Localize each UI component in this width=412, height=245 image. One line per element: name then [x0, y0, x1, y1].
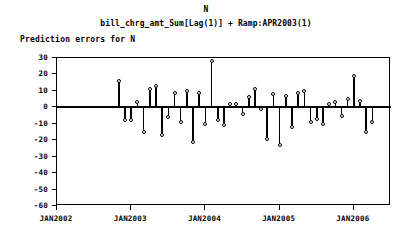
- y-axis-label: 20: [0, 69, 48, 78]
- needle-stem: [273, 94, 275, 107]
- y-axis-tick: [52, 156, 56, 157]
- data-point-marker: [321, 122, 325, 126]
- y-axis-label: 30: [0, 53, 48, 62]
- data-point-marker: [241, 112, 245, 116]
- data-point-marker: [364, 130, 368, 134]
- data-point-marker: [142, 130, 146, 134]
- data-point-marker: [123, 118, 127, 122]
- data-point-marker: [191, 140, 195, 144]
- data-point-marker: [203, 122, 207, 126]
- data-point-marker: [352, 74, 356, 78]
- data-point-marker: [247, 95, 251, 99]
- data-point-marker: [358, 99, 362, 103]
- needle-stem: [304, 91, 306, 107]
- needle-stem: [143, 107, 145, 132]
- x-axis-label: JAN2006: [336, 214, 369, 223]
- data-point-marker: [259, 107, 263, 111]
- data-point-marker: [333, 100, 337, 104]
- data-point-marker: [135, 100, 139, 104]
- x-axis-tick: [130, 205, 131, 210]
- data-point-marker: [340, 114, 344, 118]
- needle-stem: [211, 61, 213, 107]
- y-axis-tick: [52, 139, 56, 140]
- chart-subtitle: bill_chrg_amt_Sum[Lag(1)] + Ramp:APR2003…: [0, 19, 412, 28]
- data-point-marker: [265, 137, 269, 141]
- needle-stem: [254, 89, 256, 107]
- data-point-marker: [278, 143, 282, 147]
- needle-stem: [149, 89, 151, 107]
- data-point-marker: [148, 87, 152, 91]
- data-point-marker: [271, 92, 275, 96]
- data-point-marker: [117, 79, 121, 83]
- x-axis-label: JAN2003: [114, 214, 147, 223]
- x-axis-tick: [56, 205, 57, 210]
- needle-stem: [198, 93, 200, 108]
- needle-stem: [279, 107, 281, 145]
- x-axis-tick: [353, 205, 354, 210]
- x-axis-label: JAN2005: [262, 214, 295, 223]
- needle-stem: [161, 107, 163, 135]
- x-axis-tick: [204, 205, 205, 210]
- data-point-marker: [309, 120, 313, 124]
- y-axis-tick: [52, 123, 56, 124]
- y-axis-label: -20: [0, 135, 48, 144]
- data-point-marker: [216, 118, 220, 122]
- data-point-marker: [129, 118, 133, 122]
- y-axis: [56, 57, 57, 205]
- data-point-marker: [346, 97, 350, 101]
- needle-stem: [365, 107, 367, 132]
- needle-stem: [118, 81, 120, 107]
- data-point-marker: [160, 133, 164, 137]
- y-axis-label: -40: [0, 168, 48, 177]
- needle-stem: [174, 93, 176, 108]
- y-axis-tick: [52, 90, 56, 91]
- y-axis-tick: [52, 106, 56, 107]
- y-axis-label: -10: [0, 118, 48, 127]
- data-point-marker: [290, 125, 294, 129]
- y-axis-label: -30: [0, 151, 48, 160]
- needle-stem: [155, 86, 157, 107]
- series-label: Prediction errors for N: [20, 35, 135, 44]
- data-point-marker: [173, 91, 177, 95]
- y-axis-label: -50: [0, 184, 48, 193]
- data-point-marker: [185, 89, 189, 93]
- y-axis-tick: [52, 57, 56, 58]
- data-point-marker: [210, 59, 214, 63]
- data-point-marker: [197, 91, 201, 95]
- data-point-marker: [296, 91, 300, 95]
- y-axis-tick: [52, 189, 56, 190]
- data-point-marker: [253, 87, 257, 91]
- needle-stem: [186, 91, 188, 107]
- data-point-marker: [166, 115, 170, 119]
- data-point-marker: [179, 120, 183, 124]
- needle-stem: [192, 107, 194, 142]
- y-axis-tick: [52, 73, 56, 74]
- y-axis-label: 10: [0, 85, 48, 94]
- data-point-marker: [284, 94, 288, 98]
- x-axis-label: JAN2002: [39, 214, 72, 223]
- y-axis-label: 0: [0, 102, 48, 111]
- data-point-marker: [315, 117, 319, 121]
- needle-stem: [297, 93, 299, 108]
- data-point-marker: [370, 120, 374, 124]
- needle-stem: [266, 107, 268, 138]
- x-axis-label: JAN2004: [188, 214, 221, 223]
- x-axis-tick: [279, 205, 280, 210]
- needle-stem: [353, 76, 355, 107]
- chart-title: N: [0, 5, 412, 14]
- y-axis-label: -60: [0, 201, 48, 210]
- y-axis-tick: [52, 172, 56, 173]
- data-point-marker: [302, 89, 306, 93]
- prediction-errors-chart: N bill_chrg_amt_Sum[Lag(1)] + Ramp:APR20…: [0, 0, 412, 245]
- data-point-marker: [154, 84, 158, 88]
- plot-area: [56, 57, 390, 205]
- data-point-marker: [222, 123, 226, 127]
